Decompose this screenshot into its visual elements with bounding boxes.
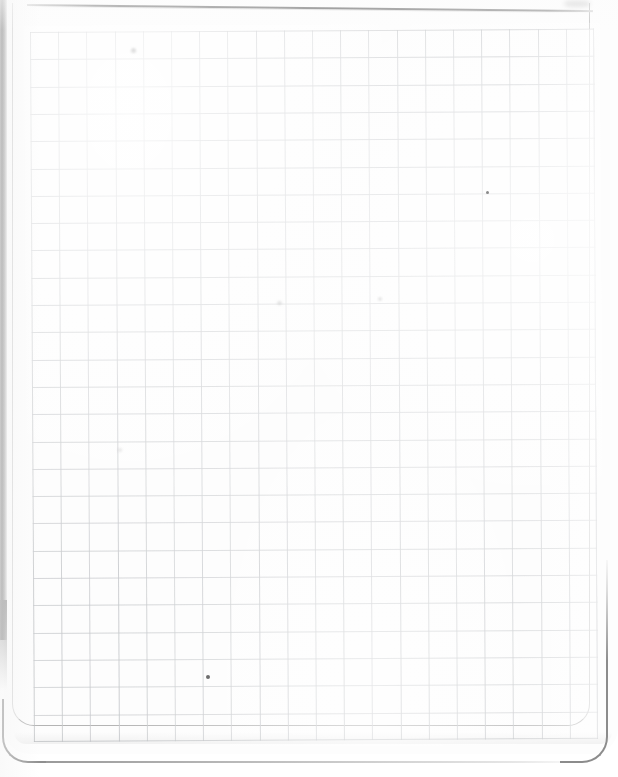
grid-line-layer bbox=[30, 29, 598, 742]
page-bottom-edge-line bbox=[46, 761, 566, 763]
graph-paper-grid bbox=[30, 29, 598, 742]
page-right-edge-line bbox=[606, 560, 608, 660]
binding-shadow-fade bbox=[0, 600, 7, 690]
scanned-page-canvas: Blank graph paper page bbox=[0, 0, 618, 777]
binding-shadow-strip bbox=[0, 0, 7, 640]
